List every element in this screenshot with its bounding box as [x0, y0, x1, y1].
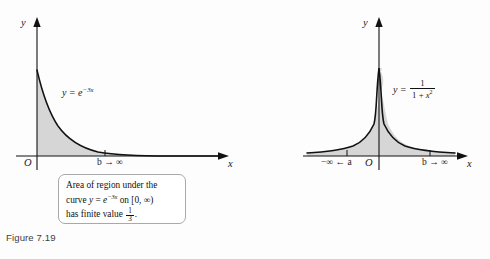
den-exponent: 2 [430, 89, 433, 95]
x-axis-label: x [467, 158, 472, 169]
caption-fraction-one-third: 1 3 [126, 208, 134, 224]
den-prefix: 1 + [412, 90, 426, 100]
caption-line-2: curve y = e−3x on [0, ∞) [66, 192, 178, 208]
plot-area-7-19 [0, 0, 245, 172]
figure-page: y x O b → ∞ y=e−3x Area of region under … [0, 0, 490, 259]
caption-l2-pre: curve [66, 196, 89, 206]
curve-label-exponent: −3x [83, 86, 94, 93]
curve-label-lhs: y [62, 87, 66, 98]
caption-line-1: Area of region under the [66, 179, 178, 192]
shaded-region-7-19 [37, 70, 218, 156]
figure-label-7-19: Figure 7.19 [6, 232, 56, 243]
fraction-denominator: 3 [126, 215, 134, 223]
curve-label-eq: = [400, 84, 406, 95]
curve-label-eq: = [69, 87, 75, 98]
caption-l2-eq: = [93, 196, 103, 206]
caption-l2-post: on [0, ∞) [117, 196, 153, 206]
curve-label-7-19: y=e−3x [62, 86, 94, 98]
fraction-numerator: 1 [410, 79, 434, 88]
y-axis-label: y [363, 17, 368, 28]
plot-svg-7-19 [0, 0, 245, 172]
curve-label-7-20: y= 1 1 + x2 [393, 79, 436, 100]
origin-label: O [365, 157, 373, 168]
caption-box-7-19: Area of region under the curve y = e−3x … [58, 174, 186, 224]
caption-line-3: has finite value 1 3 . [66, 208, 178, 224]
caption-l3-post: . [135, 209, 137, 219]
tick-label-a-to-negative-infinity: −∞ ← a [321, 157, 352, 167]
y-axis-label: y [21, 17, 26, 28]
curve-label-fraction: 1 1 + x2 [410, 79, 434, 100]
figure-7-19: y x O b → ∞ y=e−3x Area of region under … [0, 0, 245, 259]
curve-label-lhs: y [393, 84, 397, 95]
figure-7-20: y x O −∞ ← a b → ∞ y= 1 1 + x2 Area of r… [245, 0, 490, 259]
x-axis-label: x [228, 158, 233, 169]
y-axis-arrow-7-20 [375, 17, 382, 27]
tick-label-b-to-infinity: b → ∞ [422, 157, 448, 167]
tick-label-b-to-infinity: b → ∞ [97, 157, 123, 167]
origin-label: O [24, 157, 32, 168]
fraction-numerator: 1 [126, 208, 134, 215]
caption-l2-exp: −3x [107, 193, 117, 200]
y-axis-arrow-7-19 [33, 17, 40, 27]
fraction-denominator: 1 + x2 [410, 88, 434, 100]
caption-l3-pre: has finite value [66, 209, 125, 219]
